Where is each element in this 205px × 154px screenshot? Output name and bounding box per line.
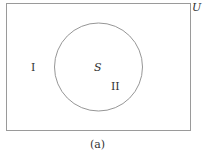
region-ii-label: II xyxy=(111,81,120,92)
universe-label: U xyxy=(192,2,201,13)
region-i-label: I xyxy=(31,62,35,73)
caption: (a) xyxy=(90,139,105,150)
venn-diagram xyxy=(0,0,205,154)
set-s-label: S xyxy=(94,62,102,73)
